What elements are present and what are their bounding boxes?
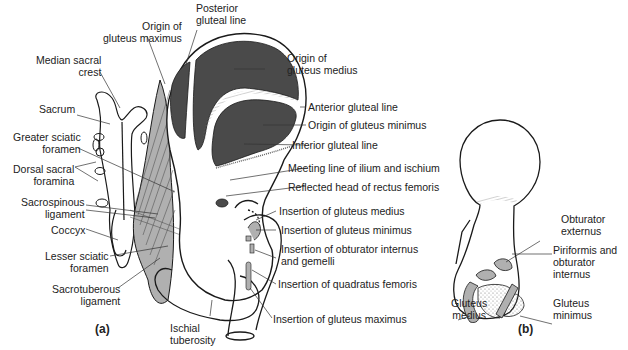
pelvis-gluteal-diagram: Origin of gluteus maximus Median sacral …	[0, 0, 628, 350]
label-line: Posterior	[196, 2, 246, 14]
label-line: and gemelli	[281, 255, 418, 267]
label-piriformis-obturator-internus: Piriformis and obturator internus	[553, 244, 617, 280]
panel-a-label: (a)	[95, 322, 110, 336]
label-line: gluteal line	[196, 14, 246, 26]
label-line: foramina	[13, 175, 74, 187]
label-line: Reflected head of rectus femoris	[288, 181, 439, 193]
label-line: Anterior gluteal line	[308, 101, 398, 113]
label-coccyx: Coccyx	[51, 224, 85, 236]
label-line: Gluteus	[553, 297, 592, 309]
label-lesser-sciatic-foramen: Lesser sciatic foramen	[45, 250, 109, 274]
label-origin-gluteus-maximus: Origin of gluteus maximus	[103, 20, 182, 44]
label-line: Sacrotuberous	[52, 283, 120, 295]
label-line: Piriformis and	[553, 244, 617, 256]
label-anterior-gluteal-line: Anterior gluteal line	[308, 101, 398, 113]
label-line: Gluteus	[451, 297, 487, 309]
label-insertion-gluteus-maximus: Insertion of gluteus maximus	[273, 313, 407, 325]
label-line: Inferior gluteal line	[292, 139, 378, 151]
label-greater-sciatic-foramen: Greater sciatic foramen	[13, 131, 81, 155]
hatch-neck	[478, 198, 516, 203]
label-line: foramen	[45, 262, 109, 274]
label-line: minimus	[553, 309, 592, 321]
label-reflected-head-rectus-femoris: Reflected head of rectus femoris	[288, 181, 439, 193]
piriformis-obturator-internus-b	[476, 270, 496, 281]
label-line: foramen	[13, 143, 81, 155]
label-insertion-obturator-internus-gemelli: Insertion of obturator internus and geme…	[281, 243, 418, 267]
label-ischial-tuberosity: Ischial tuberosity	[170, 322, 216, 346]
label-sacrotuberous-ligament: Sacrotuberous ligament	[52, 283, 120, 307]
label-posterior-gluteal-line: Posterior gluteal line	[196, 2, 246, 26]
label-obturator-externus: Obturator externus	[561, 213, 605, 237]
label-line: Origin of	[287, 52, 358, 64]
label-gluteus-medius-b: Gluteus medius	[451, 297, 487, 321]
label-line: ligament	[21, 208, 85, 220]
label-gluteus-minimus-b: Gluteus minimus	[553, 297, 592, 321]
label-line: externus	[561, 225, 605, 237]
insertion-quadratus-femoris	[246, 262, 251, 290]
label-line: Insertion of gluteus maximus	[273, 313, 407, 325]
label-line: Coccyx	[51, 224, 85, 236]
label-line: Sacrum	[39, 103, 75, 115]
label-line: Insertion of obturator internus	[281, 243, 418, 255]
label-line: Greater sciatic	[13, 131, 81, 143]
label-line: Insertion of quadratus femoris	[278, 278, 417, 290]
label-line: tuberosity	[170, 334, 216, 346]
insertion-obturator-internus	[250, 244, 254, 253]
label-line: Median sacral	[36, 54, 101, 66]
label-line: Origin of	[103, 20, 182, 32]
label-sacrum: Sacrum	[39, 103, 75, 115]
label-inferior-gluteal-line: Inferior gluteal line	[292, 139, 378, 151]
obturator-externus-b	[494, 259, 512, 271]
label-line: internus	[553, 268, 617, 280]
label-sacrospinous-ligament: Sacrospinous ligament	[21, 196, 85, 220]
label-origin-gluteus-minimus: Origin of gluteus minimus	[308, 119, 426, 131]
label-line: Origin of gluteus minimus	[308, 119, 426, 131]
label-line: Meeting line of ilium and ischium	[288, 162, 440, 174]
label-insertion-quadratus-femoris: Insertion of quadratus femoris	[278, 278, 417, 290]
label-origin-gluteus-medius: Origin of gluteus medius	[287, 52, 358, 76]
insertion-gluteus-minimus	[246, 236, 251, 241]
label-line: crest	[36, 66, 101, 78]
label-line: gluteus maximus	[103, 32, 182, 44]
label-line: Ischial	[170, 322, 216, 334]
label-line: medius	[451, 309, 487, 321]
label-line: obturator	[553, 256, 617, 268]
label-median-sacral-crest: Median sacral crest	[36, 54, 101, 78]
label-line: Insertion of gluteus medius	[279, 205, 405, 217]
label-line: ligament	[52, 295, 120, 307]
label-line: Insertion of gluteus minimus	[281, 224, 412, 236]
label-line: Lesser sciatic	[45, 250, 109, 262]
label-line: Sacrospinous	[21, 196, 85, 208]
label-line: Obturator	[561, 213, 605, 225]
label-meeting-line-ilium-ischium: Meeting line of ilium and ischium	[288, 162, 440, 174]
label-insertion-gluteus-medius: Insertion of gluteus medius	[279, 205, 405, 217]
label-insertion-gluteus-minimus: Insertion of gluteus minimus	[281, 224, 412, 236]
label-dorsal-sacral-foramina: Dorsal sacral foramina	[13, 163, 74, 187]
label-line: gluteus medius	[287, 64, 358, 76]
reflected-head-rectus-femoris	[216, 199, 228, 207]
label-line: Dorsal sacral	[13, 163, 74, 175]
panel-b-label: (b)	[518, 322, 533, 336]
